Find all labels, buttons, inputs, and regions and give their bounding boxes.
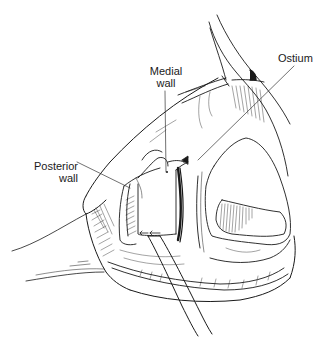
- upper-skin-edge: [209, 15, 290, 176]
- label-medial-wall-line2: wall: [146, 77, 186, 89]
- posterior-wall-hatching: [92, 196, 136, 256]
- label-ostium-line1: Ostium: [278, 52, 313, 64]
- ostium-leader: [198, 66, 294, 160]
- upper-flap: [178, 70, 264, 103]
- label-ostium: Ostium: [278, 52, 313, 64]
- right-recess-hatching: [220, 204, 252, 232]
- upper-fold-hatching: [150, 86, 264, 142]
- floor-bands: [108, 240, 290, 290]
- right-chamber: [197, 138, 291, 252]
- posterior-wall-region: [119, 150, 168, 245]
- medial-wall-leader-dot: [166, 171, 168, 173]
- label-posterior-wall-line2: wall: [30, 172, 78, 184]
- cavity-outline: [83, 78, 295, 302]
- anatomical-figure: Medial wall Ostium Posterior wall: [0, 0, 317, 349]
- medial-wall-leader: [165, 91, 166, 172]
- posterior-wall-leader: [77, 162, 130, 188]
- label-medial-wall-line1: Medial: [146, 65, 186, 77]
- label-posterior-wall: Posterior wall: [30, 160, 78, 184]
- left-skin-lines: [12, 214, 104, 281]
- label-medial-wall: Medial wall: [146, 65, 186, 89]
- label-posterior-wall-line1: Posterior: [30, 160, 78, 172]
